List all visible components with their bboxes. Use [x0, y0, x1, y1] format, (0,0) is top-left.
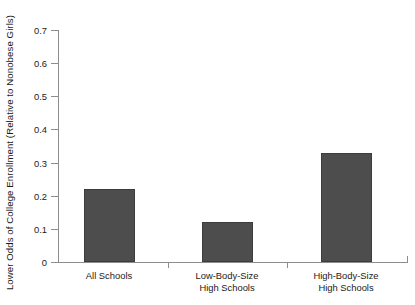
x-axis-line: [58, 262, 408, 263]
y-tick-mark: [51, 229, 58, 230]
y-tick-mark: [51, 196, 58, 197]
x-category-label-high-body-size: High-Body-Size High Schools: [271, 270, 415, 293]
y-tick-mark: [51, 129, 58, 130]
y-tick-label: 0.4: [7, 124, 47, 135]
x-separator-tick: [287, 262, 288, 268]
y-tick-mark: [51, 63, 58, 64]
y-tick-label: 0: [7, 257, 47, 268]
x-category-label-line1: High-Body-Size: [271, 270, 415, 282]
y-tick-label: 0.7: [7, 25, 47, 36]
x-axis-end-cap: [407, 256, 408, 263]
y-tick-label: 0.5: [7, 91, 47, 102]
y-axis-line: [58, 30, 59, 263]
x-separator-tick: [168, 262, 169, 268]
y-tick-mark: [51, 262, 58, 263]
x-category-label-line2: High Schools: [271, 282, 415, 294]
bar-all-schools: [84, 189, 135, 262]
y-tick-label: 0.6: [7, 58, 47, 69]
bar-high-body-size-high-schools: [321, 153, 372, 262]
y-tick-mark: [51, 30, 58, 31]
y-tick-mark: [51, 163, 58, 164]
y-tick-label: 0.2: [7, 191, 47, 202]
bar-chart: Lower Odds of College Enrollment (Relati…: [0, 0, 415, 305]
y-tick-label: 0.3: [7, 158, 47, 169]
y-tick-mark: [51, 96, 58, 97]
y-tick-label: 0.1: [7, 224, 47, 235]
bar-low-body-size-high-schools: [202, 222, 253, 262]
